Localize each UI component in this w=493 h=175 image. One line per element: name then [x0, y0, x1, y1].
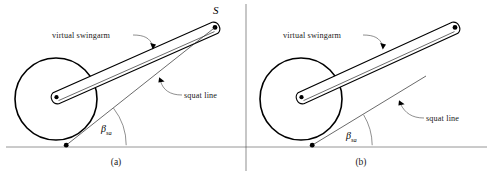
panel-caption-a: (a): [111, 157, 122, 168]
figure-container: βsa virtual swingarm squat line S (a): [0, 0, 493, 175]
contact-dot-b: [310, 143, 315, 148]
squat-line-leader-a: [161, 81, 183, 95]
motorcycle-squat-geometry-figure: βsa virtual swingarm squat line S (a): [0, 0, 493, 175]
angle-arc-b: [364, 115, 373, 145]
angle-label-b: βsa: [345, 130, 357, 143]
squat-line-leader-arrowhead-b: [398, 100, 404, 105]
hub-dot-a: [54, 95, 58, 99]
contact-dot-a: [64, 143, 69, 148]
squat-line-label-a: squat line: [184, 91, 217, 100]
swingarm-label-a: virtual swingarm: [52, 31, 111, 40]
swingarm-leader-a: [133, 35, 153, 46]
squat-line-leader-arrowhead-a: [158, 77, 164, 82]
panel-caption-b: (b): [355, 157, 366, 168]
angle-arc-a: [114, 108, 127, 145]
squat-line-leader-b: [401, 104, 425, 118]
swingarm-leader-arrowhead-b: [380, 43, 386, 50]
angle-label-a: βsa: [100, 123, 112, 136]
squat-line-label-b: squat line: [426, 114, 459, 123]
panel-a: βsa virtual swingarm squat line S (a): [15, 4, 220, 168]
hub-dot-b: [299, 95, 303, 99]
pivot-dot-b: [453, 25, 458, 30]
swingarm-label-b: virtual swingarm: [283, 31, 342, 40]
pivot-label-a: S: [213, 4, 219, 16]
swingarm-leader-b: [363, 35, 383, 46]
panel-b: βsa virtual swingarm squat line (b): [260, 22, 460, 168]
